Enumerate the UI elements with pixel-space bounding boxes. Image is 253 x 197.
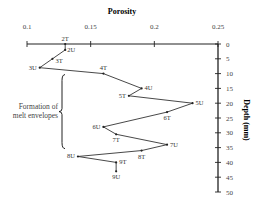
y-axis-depth: 05101520253035404550: [215, 41, 234, 197]
point-label: 6U: [92, 123, 100, 130]
data-point-4t: [102, 73, 104, 75]
porosity-depth-chart: Porosity 0.10.150.20.25 0510152025303540…: [0, 0, 253, 197]
point-label: 4U: [145, 84, 153, 91]
point-label: 3T: [55, 57, 62, 64]
chart-title: Porosity: [108, 7, 136, 16]
data-point-4u: [141, 87, 143, 89]
data-point-3t: [51, 58, 53, 60]
point-label: 8T: [138, 153, 145, 160]
x-axis-porosity: 0.10.150.20.25: [23, 23, 225, 47]
data-point-6t: [166, 111, 168, 113]
y-tick-label: 30: [226, 129, 234, 137]
data-point-5u: [191, 102, 193, 104]
y-tick-label: 10: [226, 70, 234, 78]
data-point-2u: [64, 49, 66, 51]
melt-envelope-annotation: Formation ofmelt envelopes: [13, 75, 65, 149]
y-tick-label: 0: [226, 41, 230, 49]
x-tick-label: 0.1: [23, 23, 32, 31]
point-label: 9T: [119, 158, 126, 165]
point-label: 5T: [119, 92, 126, 99]
data-point-3u: [39, 67, 41, 69]
point-label: 8U: [67, 152, 75, 159]
y-tick-label: 20: [226, 100, 234, 108]
data-point-5t: [128, 95, 130, 97]
point-label: 7T: [113, 136, 120, 143]
point-label: 6T: [163, 114, 170, 121]
data-point-2t: [64, 43, 66, 45]
data-point-6u: [102, 126, 104, 128]
y-tick-label: 5: [226, 55, 230, 63]
y-axis-label: Depth (mm): [242, 99, 251, 141]
annotation-text: melt envelopes: [13, 111, 58, 120]
y-tick-label: 35: [226, 144, 234, 152]
annotation-text: Formation of: [19, 102, 59, 111]
point-label: 2T: [62, 35, 69, 42]
curly-brace: [59, 75, 65, 149]
x-tick-label: 0.25: [212, 23, 225, 31]
y-tick-label: 45: [226, 174, 234, 182]
point-label: 3U: [29, 64, 37, 71]
data-point-7t: [115, 133, 117, 135]
data-point-9u: [115, 170, 117, 172]
x-tick-label: 0.15: [85, 23, 98, 31]
point-label: 4T: [100, 64, 107, 71]
y-tick-label: 25: [226, 115, 234, 123]
y-tick-label: 40: [226, 159, 234, 167]
data-point-8t: [141, 149, 143, 151]
y-tick-label: 50: [226, 189, 234, 197]
data-point-7u: [166, 144, 168, 146]
data-point-8u: [77, 155, 79, 157]
point-label: 7U: [170, 141, 178, 148]
point-label: 9U: [112, 173, 120, 180]
point-label: 5U: [196, 99, 204, 106]
point-label: 2U: [67, 46, 75, 53]
y-tick-label: 15: [226, 85, 234, 93]
data-point-9t: [115, 161, 117, 163]
x-tick-label: 0.2: [150, 23, 159, 31]
